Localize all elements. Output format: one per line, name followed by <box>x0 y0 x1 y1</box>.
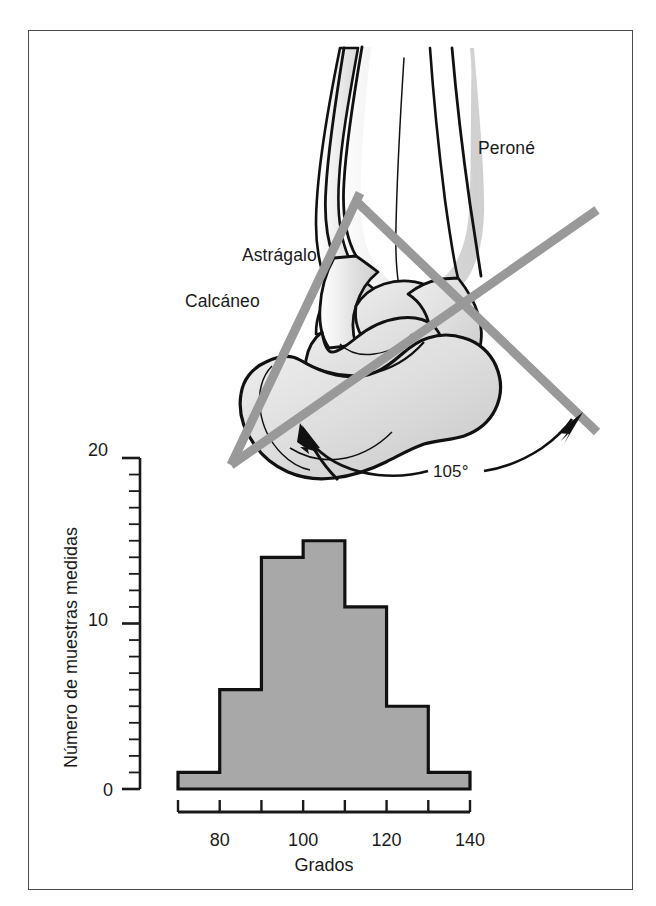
y-tick-label-10: 10 <box>88 610 108 631</box>
y-axis-title: Número de muestras medidas <box>61 498 82 798</box>
label-perone: Peroné <box>478 138 535 159</box>
figure-border <box>28 30 633 890</box>
x-tick-label-100: 100 <box>288 830 318 851</box>
x-tick-label-140: 140 <box>455 830 485 851</box>
figure-container: Peroné Astrágalo Calcáneo 105° 20 10 0 8… <box>0 0 656 906</box>
x-axis-title: Grados <box>178 855 470 876</box>
x-tick-label-80: 80 <box>210 830 230 851</box>
label-astragalo: Astrágalo <box>242 245 317 266</box>
x-tick-label-120: 120 <box>372 830 402 851</box>
label-calcaneo: Calcáneo <box>185 291 260 312</box>
label-angle-value: 105° <box>433 462 469 482</box>
y-tick-label-20: 20 <box>88 440 108 461</box>
y-tick-label-0: 0 <box>103 780 113 801</box>
